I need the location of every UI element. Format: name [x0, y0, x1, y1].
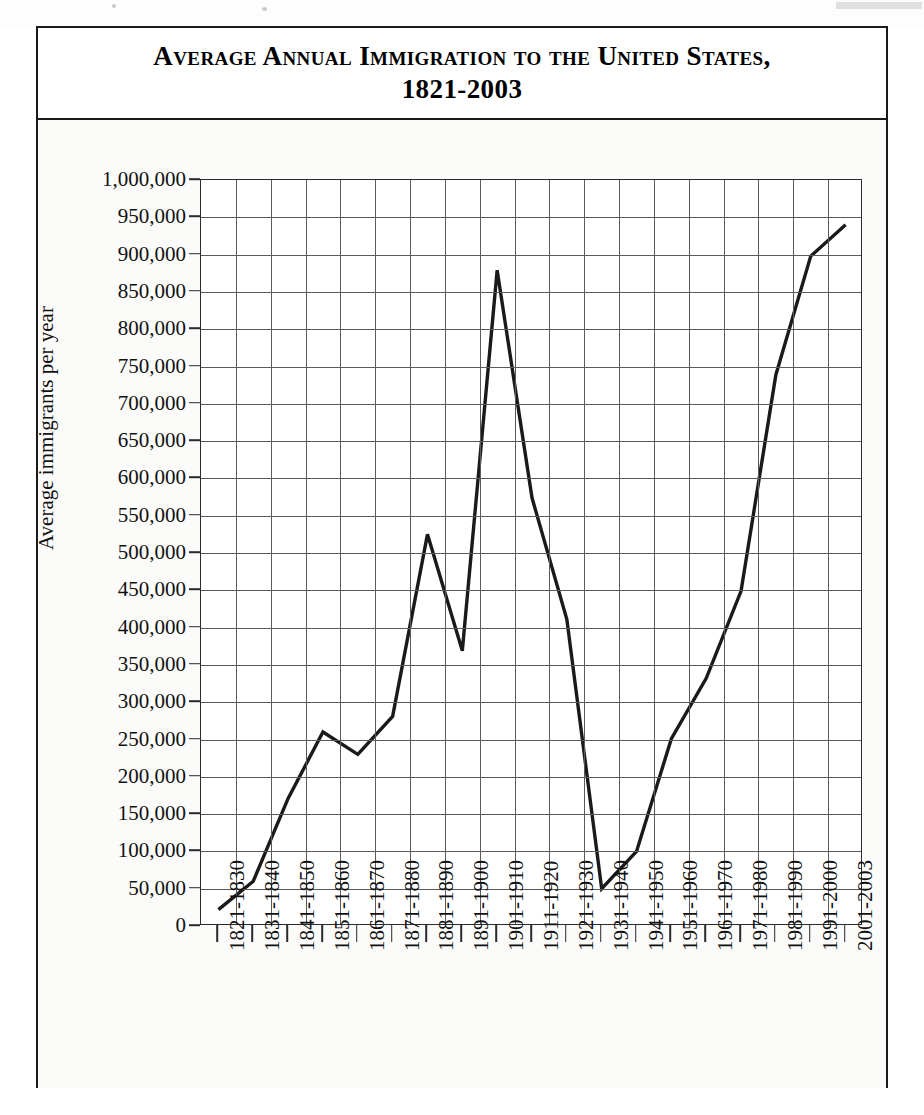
x-axis-tick-mark [426, 925, 428, 942]
x-axis-tick-label: 1961-1970 [713, 860, 738, 951]
x-axis-tick-label: 1851-1860 [330, 860, 355, 951]
x-axis-tick-label: 1921-1930 [574, 860, 599, 951]
x-axis-tick-label: 1941-1950 [644, 860, 669, 951]
page-title: Average Annual Immigration to the United… [127, 40, 796, 107]
chart-title-band: Average Annual Immigration to the United… [38, 28, 886, 120]
x-axis-tick-mark [600, 925, 602, 942]
x-axis-tick-label: 1871-1880 [400, 860, 425, 951]
x-axis-tick-mark [670, 925, 672, 942]
x-axis-tick-mark [356, 925, 358, 942]
x-axis-tick-mark [217, 925, 219, 942]
x-axis-tick-label: 1891-1900 [469, 860, 494, 951]
chart-page-frame: Average Annual Immigration to the United… [36, 26, 888, 1088]
x-axis-tick-label: 2001-2003 [853, 860, 878, 951]
x-axis-tick-label: 1831-1840 [260, 860, 285, 951]
chart-title-line-2: 1821-2003 [402, 74, 523, 104]
x-axis-tick-labels: 1821-18301831-18401841-18501851-18601861… [38, 120, 886, 1088]
x-axis-tick-mark [844, 925, 846, 942]
x-axis-tick-mark [391, 925, 393, 942]
x-axis-tick-mark [286, 925, 288, 942]
x-axis-tick-mark [251, 925, 253, 942]
x-axis-tick-label: 1991-2000 [818, 860, 843, 951]
x-axis-tick-mark [321, 925, 323, 942]
x-axis-tick-mark [461, 925, 463, 942]
x-axis-tick-mark [635, 925, 637, 942]
x-axis-tick-mark [530, 925, 532, 942]
x-axis-tick-label: 1901-1910 [504, 860, 529, 951]
chart-title-line-1: Average Annual Immigration to the United… [153, 41, 770, 71]
x-axis-tick-mark [739, 925, 741, 942]
x-axis-tick-label: 1881-1890 [434, 860, 459, 951]
x-axis-tick-label: 1951-1960 [678, 860, 703, 951]
x-axis-tick-label: 1931-1940 [609, 860, 634, 951]
x-axis-tick-label: 1821-1830 [225, 860, 250, 951]
plot-region: Average immigrants per year 050,000100,0… [38, 120, 886, 1088]
x-axis-tick-mark [495, 925, 497, 942]
x-axis-tick-label: 1981-1990 [783, 860, 808, 951]
scan-artifact-strip [0, 0, 924, 26]
x-axis-tick-mark [809, 925, 811, 942]
x-axis-tick-label: 1861-1870 [365, 860, 390, 951]
x-axis-tick-label: 1841-1850 [295, 860, 320, 951]
x-axis-tick-label: 1911-1920 [539, 861, 564, 951]
x-axis-tick-label: 1971-1980 [748, 860, 773, 951]
x-axis-tick-mark [704, 925, 706, 942]
x-axis-tick-mark [565, 925, 567, 942]
x-axis-tick-mark [774, 925, 776, 942]
